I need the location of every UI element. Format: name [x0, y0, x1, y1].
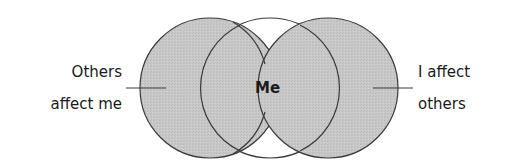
right-label: I affect others — [418, 62, 507, 114]
left-label-line2: affect me — [2, 94, 122, 114]
right-label-line2: others — [418, 94, 507, 114]
center-label: Me — [255, 79, 280, 97]
right-label-line1: I affect — [418, 62, 507, 82]
left-label-line1: Others — [2, 62, 122, 82]
left-label: Others affect me — [2, 62, 122, 114]
